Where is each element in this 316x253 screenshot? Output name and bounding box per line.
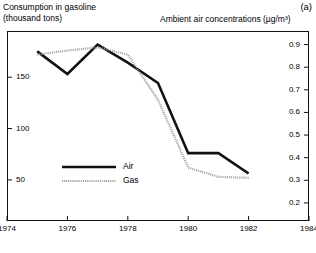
legend-label-gas: Gas — [123, 175, 139, 185]
legend-label-air: Air — [123, 161, 133, 171]
y-left-axis-tick-label: 100 — [16, 124, 29, 133]
y-right-axis-tick-label: 0.6 — [289, 107, 300, 116]
y-right-axis-tick-label: 0.4 — [289, 153, 300, 162]
series-line-gas — [37, 47, 248, 177]
figure-panel-a: (a) Consumption in gasoline (thousand to… — [0, 0, 316, 253]
series-line-air — [37, 45, 248, 174]
chart-overlay — [0, 0, 316, 253]
x-axis-tick-label: 1982 — [229, 224, 269, 233]
y-right-axis-tick-label: 0.2 — [289, 198, 300, 207]
x-axis-tick-label: 1976 — [47, 224, 87, 233]
y-right-axis-tick-label: 0.9 — [289, 40, 300, 49]
x-axis-tick-label: 1978 — [108, 224, 148, 233]
y-left-axis-tick-label: 50 — [16, 175, 25, 184]
y-right-axis-tick-label: 0.5 — [289, 130, 300, 139]
y-right-axis-tick-label: 0.7 — [289, 85, 300, 94]
x-axis-tick-label: 1980 — [168, 224, 208, 233]
y-left-axis-tick-label: 150 — [16, 72, 29, 81]
y-right-axis-tick-label: 0.8 — [289, 62, 300, 71]
x-axis-tick-label: 1974 — [0, 224, 27, 233]
x-axis-tick-label: 1984 — [289, 224, 316, 233]
y-right-axis-tick-label: 0.3 — [289, 175, 300, 184]
